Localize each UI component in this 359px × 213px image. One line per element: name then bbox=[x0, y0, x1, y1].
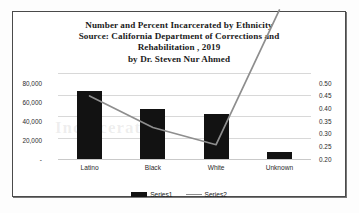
y-axis-left-tick-20000: 20,000 bbox=[22, 137, 42, 144]
legend-bar-swatch-icon bbox=[131, 192, 147, 197]
legend-line-swatch-icon bbox=[186, 194, 202, 195]
y-axis-left-tick-80000: 80,000 bbox=[22, 80, 42, 87]
legend-label-series1: Series1 bbox=[150, 191, 172, 198]
x-axis-label-latino: Latino bbox=[59, 164, 120, 171]
chart-title-line-3: Rehabilitation , 2019 bbox=[13, 42, 345, 53]
chart-legend: Series1 Series2 bbox=[13, 191, 345, 198]
y-axis-left-tick-40000: 40,000 bbox=[22, 118, 42, 125]
chart-title: Number and Percent Incarcerated by Ethni… bbox=[13, 20, 345, 65]
y-axis-left-tick-60000: 60,000 bbox=[22, 99, 42, 106]
bar-black[interactable] bbox=[140, 109, 165, 160]
bar-white[interactable] bbox=[204, 114, 229, 159]
y-axis-right-tick-040: 0.40 bbox=[319, 105, 331, 112]
legend-item-series1[interactable]: Series1 bbox=[131, 191, 172, 198]
gridline-80000 bbox=[58, 73, 311, 74]
x-axis-label-unknown: Unknown bbox=[249, 164, 310, 171]
x-axis-label-black: Black bbox=[122, 164, 183, 171]
chart-title-line-1: Number and Percent Incarcerated by Ethni… bbox=[13, 20, 345, 31]
y-axis-left-tick-0: - bbox=[40, 156, 42, 163]
x-axis-label-white: White bbox=[186, 164, 247, 171]
chart-title-line-4: by Dr. Steven Nur Ahmed bbox=[13, 54, 345, 65]
chart-title-line-2: Source: California Department of Correct… bbox=[13, 31, 345, 42]
legend-label-series2: Series2 bbox=[205, 191, 227, 198]
plot-area bbox=[58, 73, 311, 159]
y-axis-right-tick-045: 0.45 bbox=[319, 92, 331, 99]
y-axis-right-tick-020: 0.20 bbox=[319, 156, 331, 163]
bar-unknown[interactable] bbox=[267, 152, 292, 160]
chart-frame: Incarcerated Number and Percent Incarcer… bbox=[12, 11, 346, 197]
gridline-zero-baseline bbox=[58, 159, 311, 160]
y-axis-right-tick-050: 0.50 bbox=[319, 80, 331, 87]
y-axis-right-tick-030: 0.30 bbox=[319, 130, 331, 137]
y-axis-right-tick-035: 0.35 bbox=[319, 118, 331, 125]
legend-item-series2[interactable]: Series2 bbox=[186, 191, 227, 198]
bar-latino[interactable] bbox=[77, 91, 102, 159]
y-axis-right-tick-025: 0.25 bbox=[319, 143, 331, 150]
scanned-page: Incarcerated Number and Percent Incarcer… bbox=[0, 0, 359, 213]
